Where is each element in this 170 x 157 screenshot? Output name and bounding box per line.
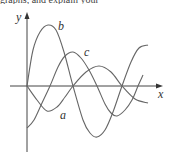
axes: x y [10,10,164,152]
curves [27,25,148,137]
y-axis-label: y [15,10,22,24]
curve-labels: abc [58,19,90,122]
function-graph: x y abc [0,0,170,157]
curve-label-a: a [60,108,66,122]
curve-b [27,25,148,137]
y-axis-arrow-icon [25,12,30,19]
curve-label-c: c [84,45,90,59]
x-axis-label: x [157,87,164,101]
curve-label-b: b [58,19,64,33]
